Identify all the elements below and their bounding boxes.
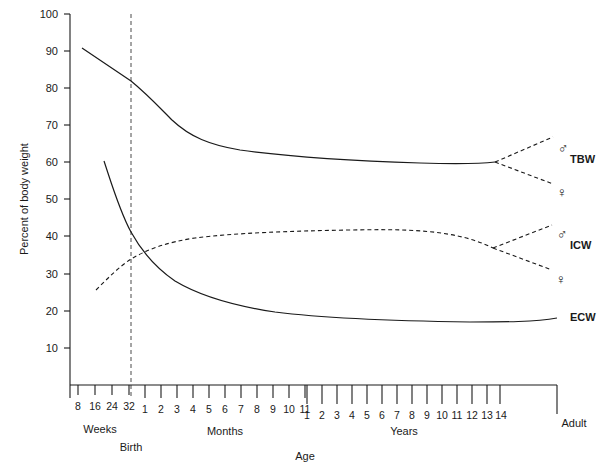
ecw-curve xyxy=(104,161,557,322)
years-tick-8: 8 xyxy=(409,409,415,421)
adult-label: Adult xyxy=(561,417,586,429)
years-tick-11: 11 xyxy=(452,409,463,421)
months-tick-8: 8 xyxy=(254,403,260,415)
weeks-group-label: Weeks xyxy=(83,423,116,435)
y-axis-title: Percent of body weight xyxy=(18,143,30,255)
y-tick-40: 40 xyxy=(32,230,58,242)
years-tick-14: 14 xyxy=(495,409,507,421)
years-tick-7: 7 xyxy=(394,409,400,421)
years-ticks xyxy=(307,385,500,404)
years-tick-3: 3 xyxy=(334,409,340,421)
female-symbol: ♀ xyxy=(556,272,567,286)
weeks-ticks xyxy=(78,385,129,395)
months-tick-10: 10 xyxy=(283,403,295,415)
weeks-tick-32: 32 xyxy=(123,400,135,412)
weeks-tick-16: 16 xyxy=(89,400,101,412)
years-tick-12: 12 xyxy=(466,409,478,421)
y-tick-100: 100 xyxy=(32,8,58,20)
months-tick-4: 4 xyxy=(190,403,196,415)
female-symbol: ♀ xyxy=(557,185,568,199)
icw-female-branch xyxy=(493,248,552,270)
y-tick-30: 30 xyxy=(32,268,58,280)
months-tick-2: 2 xyxy=(158,403,164,415)
weeks-tick-8: 8 xyxy=(75,400,81,412)
y-axis-ticks xyxy=(64,14,70,348)
male-symbol: ♂ xyxy=(558,141,569,155)
y-tick-70: 70 xyxy=(32,119,58,131)
years-tick-2: 2 xyxy=(319,409,325,421)
years-tick-9: 9 xyxy=(424,409,430,421)
birth-label: Birth xyxy=(120,441,143,453)
series-label-icw: ICW xyxy=(570,239,591,251)
weeks-tick-24: 24 xyxy=(106,400,118,412)
series-label-tbw: TBW xyxy=(570,153,595,165)
years-tick-5: 5 xyxy=(364,409,370,421)
body-water-composition-chart: 100 90 80 70 60 50 40 30 20 10 Percent o… xyxy=(0,0,613,472)
x-axis-title: Age xyxy=(295,450,315,462)
icw-curve xyxy=(96,230,493,290)
months-tick-6: 6 xyxy=(222,403,228,415)
months-tick-9: 9 xyxy=(270,403,276,415)
y-tick-50: 50 xyxy=(32,193,58,205)
series-label-ecw: ECW xyxy=(570,311,596,323)
y-tick-60: 60 xyxy=(32,156,58,168)
months-ticks xyxy=(145,385,305,398)
months-tick-7: 7 xyxy=(238,403,244,415)
y-tick-80: 80 xyxy=(32,82,58,94)
y-tick-90: 90 xyxy=(32,45,58,57)
years-tick-4: 4 xyxy=(349,409,355,421)
years-tick-1: 1 xyxy=(304,409,310,421)
years-tick-13: 13 xyxy=(481,409,493,421)
tbw-curve xyxy=(82,48,495,164)
years-tick-6: 6 xyxy=(379,409,385,421)
months-tick-5: 5 xyxy=(206,403,212,415)
months-tick-3: 3 xyxy=(174,403,180,415)
months-group-label: Months xyxy=(207,425,243,437)
tbw-female-branch xyxy=(495,162,553,184)
tbw-male-branch xyxy=(495,137,553,162)
male-symbol: ♂ xyxy=(557,227,568,241)
y-tick-20: 20 xyxy=(32,305,58,317)
months-tick-1: 1 xyxy=(142,403,148,415)
y-tick-10: 10 xyxy=(32,342,58,354)
icw-male-branch xyxy=(493,225,552,248)
years-group-label: Years xyxy=(390,425,418,437)
years-tick-10: 10 xyxy=(436,409,448,421)
